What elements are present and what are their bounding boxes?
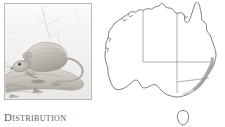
distribution-heading: DISTRIBUTION xyxy=(4,112,66,124)
distribution-heading-rest: ISTRIBUTION xyxy=(12,114,66,123)
australia-map-svg xyxy=(98,0,225,127)
species-photograph-image xyxy=(5,4,91,99)
species-photograph xyxy=(4,3,92,100)
tasmania-outline xyxy=(177,111,188,126)
photo-rodent-eye xyxy=(18,63,21,66)
distribution-map xyxy=(98,0,225,127)
